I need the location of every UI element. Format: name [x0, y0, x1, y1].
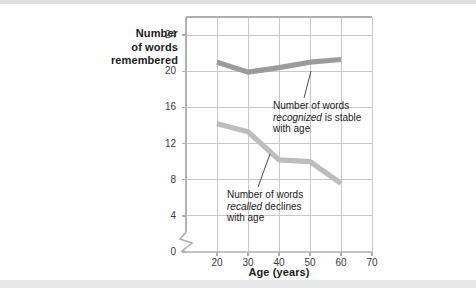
line-chart-plot — [0, 0, 476, 288]
y-tick-label: 16 — [156, 101, 176, 112]
y-tick-label: 20 — [156, 65, 176, 76]
x-tick-label: 20 — [206, 257, 228, 268]
annotation-text: with age — [227, 212, 264, 223]
annotation-text: Number of words — [227, 189, 303, 200]
annotation-text: is stable — [322, 112, 361, 123]
x-tick-label: 40 — [268, 257, 290, 268]
annotation-recalled: Number of wordsrecalled declineswith age — [227, 189, 303, 224]
leader-line-recalled — [258, 154, 270, 187]
x-tick-label: 70 — [361, 257, 383, 268]
y-tick-label: 12 — [156, 138, 176, 149]
x-tick-label: 50 — [299, 257, 321, 268]
annotation-recognized: Number of wordsrecognized is stablewith … — [273, 100, 361, 135]
x-tick-label: 30 — [237, 257, 259, 268]
y-tick-label: 24 — [156, 29, 176, 40]
annotation-emphasis: recalled — [227, 201, 262, 212]
y-tick-label: 4 — [156, 210, 176, 221]
chart-figure: Number of words remembered Age (years) 0… — [0, 0, 476, 288]
annotation-text: declines — [262, 201, 301, 212]
y-axis-title-line-2: of words — [96, 41, 178, 55]
annotation-line: recognized is stable — [273, 112, 361, 124]
annotation-line: Number of words — [273, 100, 361, 112]
y-tick-label: 8 — [156, 174, 176, 185]
annotation-text: Number of words — [273, 100, 349, 111]
x-tick-label: 60 — [330, 257, 352, 268]
annotation-text: with age — [273, 123, 310, 134]
y-tick-label: 0 — [156, 246, 176, 257]
annotation-line: Number of words — [227, 189, 303, 201]
annotation-line: with age — [273, 123, 361, 135]
annotation-emphasis: recognized — [273, 112, 322, 123]
annotation-line: with age — [227, 212, 303, 224]
annotation-line: recalled declines — [227, 201, 303, 213]
